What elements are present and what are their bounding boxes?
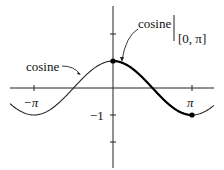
- arrow-cosine: [62, 66, 80, 74]
- cosine-graph: [0, 0, 224, 170]
- label-cosine: cosine: [26, 60, 59, 73]
- arrow-cosine-restricted: [122, 29, 138, 60]
- label-cosine-restricted: cosine: [138, 17, 171, 30]
- label-interval: [0, π]: [178, 32, 206, 45]
- endpoint-pi: [189, 112, 194, 117]
- label-neg-pi: −π: [23, 96, 38, 109]
- label-neg-one: −1: [90, 109, 104, 122]
- endpoint-0: [110, 58, 115, 63]
- label-pi: π: [187, 96, 194, 109]
